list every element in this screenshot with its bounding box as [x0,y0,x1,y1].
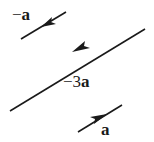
arrowhead-icon [72,41,90,52]
label-neg-a: −a [12,5,31,24]
vector-neg-3a-line [10,29,145,111]
vector-diagram: −a −3a a [0,0,154,142]
vector-a [78,105,122,132]
label-a: a [101,120,110,139]
vector-neg-3a [10,29,145,111]
label-neg-3a: −3a [63,72,90,91]
